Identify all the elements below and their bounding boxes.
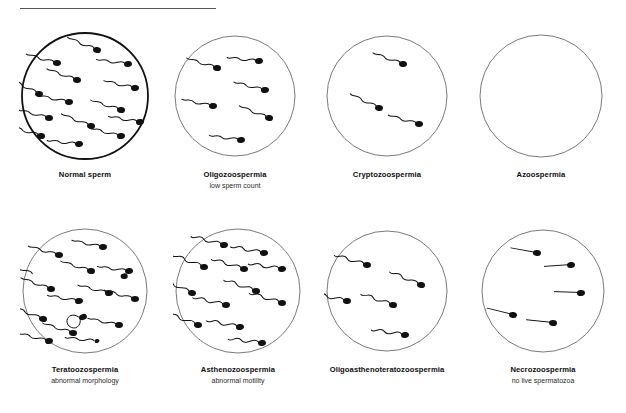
panel-labels-cryptozoospermia: Cryptozoospermia [309,170,465,180]
panel-title-asthenozoospermia: Asthenozoospermia [160,365,316,375]
panel-subtitle-oligozoospermia: low sperm count [157,181,313,191]
specimen-circle-teratoozospermia [7,221,163,361]
specimen-circle-oligozoospermia [157,26,313,166]
specimen-circle-normal-sperm [7,26,163,166]
specimen-circle-azoospermia [463,26,619,166]
field-of-view-outline [480,35,602,157]
specimen-circle-oligoasthenoteratozoospermia [309,221,465,361]
panel-labels-oligoasthenoteratozoospermia: Oligoasthenoteratozoospermia [309,365,465,375]
panel-subtitle-asthenozoospermia: abnormal motility [160,376,316,386]
panel-labels-normal-sperm: Normal sperm [7,170,163,180]
sperm-head [240,266,248,272]
specimen-drawing-teratoozospermia [20,226,150,356]
sperm-head [415,121,423,127]
specimen-circle-asthenozoospermia [160,221,316,361]
panel-oligozoospermia: Oligozoospermialow sperm count [157,26,313,191]
sperm-head [278,300,286,306]
specimen-drawing-azoospermia [477,32,605,160]
field-of-view-outline [327,36,447,156]
panel-oligoasthenoteratozoospermia: Oligoasthenoteratozoospermia [309,221,465,375]
panel-title-cryptozoospermia: Cryptozoospermia [309,170,465,180]
field-of-view-outline [482,230,604,352]
specimen-circle-cryptozoospermia [309,26,465,166]
panel-labels-oligozoospermia: Oligozoospermialow sperm count [157,170,313,191]
specimen-drawing-necrozoospermia [479,227,607,355]
specimen-drawing-asthenozoospermia [173,226,303,356]
panel-title-necrozoospermia: Necrozoospermia [465,365,621,375]
field-of-view-outline [23,229,147,353]
specimen-circle-necrozoospermia [465,221,621,361]
panel-title-oligoasthenoteratozoospermia: Oligoasthenoteratozoospermia [309,365,465,375]
panel-subtitle-teratoozospermia: abnormal morphology [7,376,163,386]
panel-labels-necrozoospermia: Necrozoospermiano live spermatozoa [465,365,621,386]
sperm-head [363,262,371,268]
panel-title-oligozoospermia: Oligozoospermia [157,170,313,180]
specimen-drawing-cryptozoospermia [324,33,450,159]
panel-normal-sperm: Normal sperm [7,26,163,180]
sperm-head [53,60,61,66]
panel-azoospermia: Azoospermia [463,26,619,180]
panel-subtitle-necrozoospermia: no live spermatozoa [465,376,621,386]
sperm-head [55,252,63,258]
specimen-drawing-oligoasthenoteratozoospermia [324,228,450,354]
panel-labels-asthenozoospermia: Asthenozoospermiaabnormal motility [160,365,316,386]
sperm-head [131,296,139,302]
panel-title-azoospermia: Azoospermia [463,170,619,180]
panel-teratoozospermia: Teratoozospermiaabnormal morphology [7,221,163,386]
sperm-analysis-figure: Normal spermOligozoospermialow sperm cou… [0,0,626,413]
panel-asthenozoospermia: Asthenozoospermiaabnormal motility [160,221,316,386]
specimen-drawing-oligozoospermia [172,33,298,159]
specimen-drawing-normal-sperm [19,30,151,162]
panel-labels-teratoozospermia: Teratoozospermiaabnormal morphology [7,365,163,386]
panel-labels-azoospermia: Azoospermia [463,170,619,180]
panel-title-normal-sperm: Normal sperm [7,170,163,180]
panel-cryptozoospermia: Cryptozoospermia [309,26,465,180]
panel-necrozoospermia: Necrozoospermiano live spermatozoa [465,221,621,386]
panel-title-teratoozospermia: Teratoozospermia [7,365,163,375]
